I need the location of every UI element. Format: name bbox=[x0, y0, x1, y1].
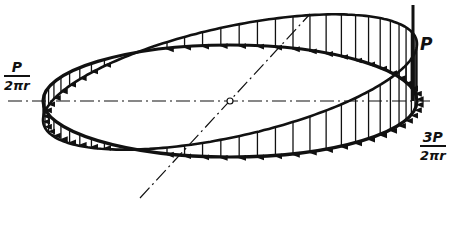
right-load-label: 3P 2πr bbox=[420, 130, 446, 162]
right-load-numerator: 3P bbox=[421, 130, 445, 144]
fraction-bar bbox=[420, 145, 446, 147]
left-load-denominator: 2πr bbox=[4, 79, 30, 92]
left-load-label: P 2πr bbox=[4, 60, 30, 92]
load-distribution-curve bbox=[43, 14, 417, 149]
load-arrows bbox=[43, 14, 417, 158]
right-load-denominator: 2πr bbox=[420, 149, 446, 162]
left-load-numerator: P bbox=[10, 60, 24, 74]
ring-load-diagram bbox=[0, 0, 463, 237]
force-label: P bbox=[420, 36, 432, 53]
fraction-bar bbox=[4, 75, 30, 77]
ring-center-point bbox=[227, 98, 233, 104]
